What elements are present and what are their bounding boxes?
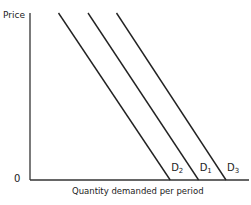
x-axis-label: Quantity demanded per period xyxy=(72,187,204,196)
demand-shift-chart xyxy=(0,0,251,205)
origin-label: 0 xyxy=(14,174,20,184)
curve-label-d3: D3 xyxy=(227,163,239,175)
demand-curves xyxy=(59,13,227,180)
y-axis-label: Price xyxy=(3,11,25,20)
demand-curve-d3 xyxy=(117,13,227,180)
curve-label-d1: D1 xyxy=(200,163,212,175)
curve-label-d2: D2 xyxy=(171,163,183,175)
demand-curve-d2 xyxy=(59,13,171,180)
demand-curve-d1 xyxy=(88,13,199,180)
